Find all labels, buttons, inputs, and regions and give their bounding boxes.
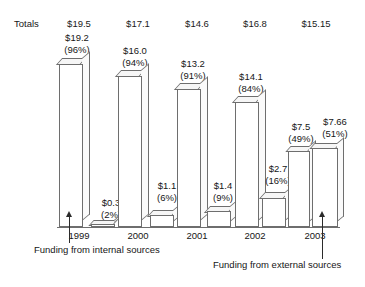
value-label-2003-external: $7.66 (51%)	[312, 116, 358, 139]
bar-2003-internal	[288, 146, 310, 227]
category-axis-line	[57, 227, 340, 228]
bar-face-2002-external	[262, 198, 286, 227]
total-value-2002: $16.8	[231, 18, 279, 29]
bar-2002-internal	[235, 96, 259, 227]
bar-face-1999-internal	[59, 64, 83, 227]
year-label-2001: 2001	[171, 230, 223, 241]
bar-2002-external	[262, 192, 286, 227]
value-label-2000-internal: $16.0 (94%)	[112, 45, 158, 68]
value-label-1999-internal: $19.2 (96%)	[54, 32, 100, 55]
bar-face-2003-external	[312, 148, 338, 227]
value-2002-internal: $14.1	[228, 71, 274, 83]
bar-2000-internal	[118, 70, 142, 227]
bar-2003-external	[312, 143, 338, 227]
percent-2000-internal: (94%)	[112, 57, 158, 69]
funding-bar-chart: Totals $19.5 $17.1 $14.6 $16.8 $15.15 $1…	[0, 0, 365, 287]
value-1999-internal: $19.2	[54, 32, 100, 44]
bar-face-2001-internal	[177, 89, 201, 227]
bar-2000-external	[150, 210, 174, 227]
year-label-2003: 2003	[289, 230, 341, 241]
value-label-2002-internal: $14.1 (84%)	[228, 71, 274, 94]
bar-face-2000-internal	[118, 76, 142, 227]
percent-2003-external: (51%)	[312, 128, 358, 140]
total-value-1999: $19.5	[55, 18, 103, 29]
annotation-internal-sources: Funding from internal sources	[34, 244, 160, 255]
value-label-2001-internal: $13.2 (91%)	[170, 58, 216, 81]
totals-row-label: Totals	[14, 18, 39, 29]
value-2000-internal: $16.0	[112, 45, 158, 57]
year-label-1999: 1999	[53, 230, 105, 241]
percent-2001-internal: (91%)	[170, 70, 216, 82]
percent-1999-internal: (96%)	[54, 44, 100, 56]
percent-2002-internal: (84%)	[228, 83, 274, 95]
total-value-2001: $14.6	[173, 18, 221, 29]
total-value-2003: $15.15	[292, 18, 340, 29]
bar-side-2003-external	[337, 137, 344, 222]
bar-face-2003-internal	[288, 151, 310, 227]
annotation-external-sources: Funding from external sources	[213, 259, 341, 270]
bar-1999-external	[91, 220, 115, 227]
total-value-2000: $17.1	[114, 18, 162, 29]
value-2001-internal: $13.2	[170, 58, 216, 70]
year-label-2000: 2000	[112, 230, 164, 241]
external-leader-line	[322, 217, 323, 259]
bar-side-1999-internal	[82, 51, 90, 221]
internal-leader-line	[69, 217, 70, 243]
bar-face-2000-external	[150, 215, 174, 227]
bar-2001-internal	[177, 83, 201, 227]
bar-2001-external	[207, 206, 231, 227]
bar-face-2001-external	[207, 211, 231, 227]
value-2003-external: $7.66	[312, 116, 358, 128]
year-label-2002: 2002	[229, 230, 281, 241]
bar-1999-internal	[59, 58, 83, 227]
